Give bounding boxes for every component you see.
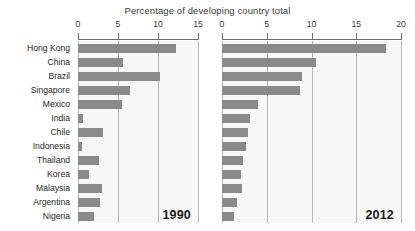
bar [78, 212, 94, 221]
bar [222, 100, 258, 109]
bar [78, 170, 89, 179]
category-label: Chile [50, 125, 70, 139]
x-tick-label: 0 [76, 19, 81, 29]
x-tick-mark [222, 33, 223, 40]
gridline [356, 41, 357, 223]
x-tick-label: 5 [116, 19, 121, 29]
bar [78, 198, 100, 207]
category-label: China [48, 55, 70, 69]
bar [222, 44, 386, 53]
bar [222, 128, 248, 137]
bar [222, 212, 234, 221]
bar [78, 44, 176, 53]
bar [78, 86, 130, 95]
bar [222, 114, 250, 123]
chart-panel-2012: 2012 05101520 [218, 0, 408, 231]
gridline [267, 41, 268, 223]
x-tick-mark [356, 33, 357, 40]
x-tick-label: 15 [193, 19, 203, 29]
category-label: Mexico [43, 97, 70, 111]
gridline [118, 41, 119, 223]
bar [78, 100, 122, 109]
x-tick-mark [312, 33, 313, 40]
category-label: Singapore [31, 83, 70, 97]
bar [222, 86, 300, 95]
x-tick-label: 5 [264, 19, 269, 29]
x-tick-mark [401, 33, 402, 40]
bar [222, 198, 237, 207]
gridline [158, 41, 159, 223]
bar [222, 170, 241, 179]
gridline [198, 41, 199, 223]
bar [78, 58, 123, 67]
category-label: Nigeria [43, 209, 70, 223]
category-label: Thailand [37, 153, 70, 167]
bar [78, 142, 82, 151]
bar [78, 114, 83, 123]
gridline [401, 41, 402, 223]
year-label-2012: 2012 [365, 208, 394, 222]
bar [222, 58, 316, 67]
year-label-1990: 1990 [162, 208, 191, 222]
category-axis: Hong KongChinaBrazilSingaporeMexicoIndia… [0, 41, 74, 223]
category-label: Malaysia [36, 181, 70, 195]
bar [222, 156, 243, 165]
bar [222, 142, 246, 151]
x-tick-mark [158, 33, 159, 40]
x-tick-mark [118, 33, 119, 40]
x-tick-label: 0 [220, 19, 225, 29]
bar [222, 184, 242, 193]
bar-chart-figure: Percentage of developing country total H… [0, 0, 415, 231]
category-label: Brazil [49, 69, 71, 83]
bar [78, 156, 99, 165]
x-tick-mark [267, 33, 268, 40]
category-label: Argentina [33, 195, 70, 209]
bar [78, 128, 103, 137]
category-label: India [51, 111, 70, 125]
bar [78, 184, 102, 193]
gridline [312, 41, 313, 223]
bar [78, 72, 160, 81]
x-tick-label: 15 [351, 19, 361, 29]
category-label: Indonesia [33, 139, 70, 153]
chart-panel-1990: 1990 051015 [74, 0, 205, 231]
x-axis-line-1990 [78, 39, 198, 40]
bar [222, 72, 302, 81]
x-tick-label: 10 [153, 19, 163, 29]
category-label: Hong Kong [27, 41, 70, 55]
x-tick-label: 20 [396, 19, 406, 29]
x-tick-mark [78, 33, 79, 40]
x-tick-mark [198, 33, 199, 40]
x-tick-label: 10 [307, 19, 317, 29]
category-label: Korea [47, 167, 70, 181]
